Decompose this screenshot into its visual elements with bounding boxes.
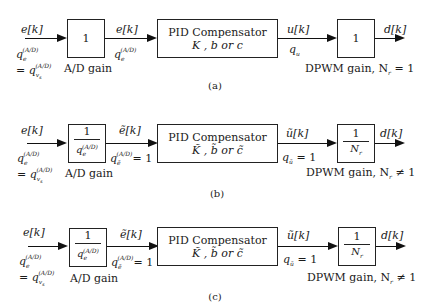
pid-to-dpwm-line xyxy=(278,143,330,144)
pid-compensator-block: PID Compensator K̃ , b̃ or c̃ xyxy=(157,124,278,163)
pid-out-signal-label: ũ[k] xyxy=(287,230,309,242)
dpwm-gain-label: DPWM gain, Nr = 1 xyxy=(305,63,414,79)
ad-to-pid-arrow xyxy=(147,34,157,42)
diagram-a: e[k] qe(A/D) = qvs(A/D) 1 A/D gain e[k] … xyxy=(0,0,427,100)
diagram-c: e[k] qe(A/D) = qvs(A/D) 1 qe(A/D) A/D ga… xyxy=(0,201,427,307)
ad-gain-label: A/D gain xyxy=(70,273,118,285)
ad-to-pid-line xyxy=(105,38,151,39)
pid-to-dpwm-arrow xyxy=(327,34,337,42)
output-line xyxy=(375,143,397,144)
input-signal-label: e[k] xyxy=(21,24,43,36)
output-arrow xyxy=(395,139,405,147)
input-quant-2: = qvs(A/D) xyxy=(16,60,51,84)
caption-a: (a) xyxy=(195,80,235,91)
diagram-b: e[k] qe(A/D) = qvs(A/D) 1 qe(A/D) A/D ga… xyxy=(0,101,427,201)
output-signal-label: d[k] xyxy=(381,230,403,242)
input-quant-2: = qvs(A/D) xyxy=(17,164,52,188)
fraction-bar xyxy=(74,139,99,140)
dpwm-gain-block: 1 xyxy=(337,19,375,58)
pid-out-quant: qu xyxy=(289,44,300,60)
pid-compensator-block: PID Compensator K̃ , b̃ or c̃ xyxy=(157,227,278,266)
input-line xyxy=(25,38,57,39)
input-arrow xyxy=(57,139,67,147)
ad-gain-label: A/D gain xyxy=(64,63,112,75)
ad-out-signal-label: ẽ[k] xyxy=(120,229,142,241)
output-arrow xyxy=(396,242,406,250)
input-signal-label: e[k] xyxy=(23,227,45,239)
pid-compensator-block: PID Compensator K , b or c xyxy=(157,19,278,58)
input-signal-label: e[k] xyxy=(21,125,43,137)
input-quant-2: = qvs(A/D) xyxy=(19,267,54,291)
input-line xyxy=(27,143,57,144)
ad-out-quant: qe(A/D) xyxy=(114,44,136,65)
dpwm-gain-label: DPWM gain, Nr ≠ 1 xyxy=(307,272,416,288)
ad-out-signal-label: e[k] xyxy=(116,24,138,36)
output-line xyxy=(376,246,398,247)
pid-out-signal-label: u[k] xyxy=(287,24,309,36)
fraction-bar xyxy=(343,141,368,142)
pid-to-dpwm-arrow xyxy=(328,242,338,250)
fraction-bar xyxy=(344,244,369,245)
dpwm-gain-block: 1 Nr xyxy=(337,124,375,163)
input-arrow xyxy=(57,34,67,42)
ad-gain-block: 1 qe(A/D) xyxy=(68,124,106,163)
dpwm-gain-label: DPWM gain, Nr ≠ 1 xyxy=(306,167,415,183)
input-arrow xyxy=(58,242,68,250)
pid-out-quant: qũ = 1 xyxy=(283,254,317,270)
fraction-bar xyxy=(75,243,100,244)
output-line xyxy=(375,38,397,39)
pid-out-signal-label: ũ[k] xyxy=(286,128,308,140)
ad-out-quant: qẽ(A/D)= 1 xyxy=(111,252,153,273)
ad-gain-block: 1 xyxy=(67,19,105,58)
input-line xyxy=(28,246,58,247)
ad-gain-block: 1 qe(A/D) xyxy=(69,228,107,267)
ad-out-quant: qẽ(A/D)= 1 xyxy=(110,148,152,169)
ad-to-pid-line xyxy=(106,143,151,144)
ad-gain-label: A/D gain xyxy=(65,168,113,180)
pid-to-dpwm-line xyxy=(278,246,331,247)
output-arrow xyxy=(395,34,405,42)
caption-c: (c) xyxy=(195,291,235,302)
ad-to-pid-line xyxy=(107,246,152,247)
caption-b: (b) xyxy=(197,188,237,199)
dpwm-gain-block: 1 Nr xyxy=(338,227,376,266)
ad-out-signal-label: ẽ[k] xyxy=(119,125,141,137)
pid-to-dpwm-line xyxy=(278,38,330,39)
pid-to-dpwm-arrow xyxy=(327,139,337,147)
